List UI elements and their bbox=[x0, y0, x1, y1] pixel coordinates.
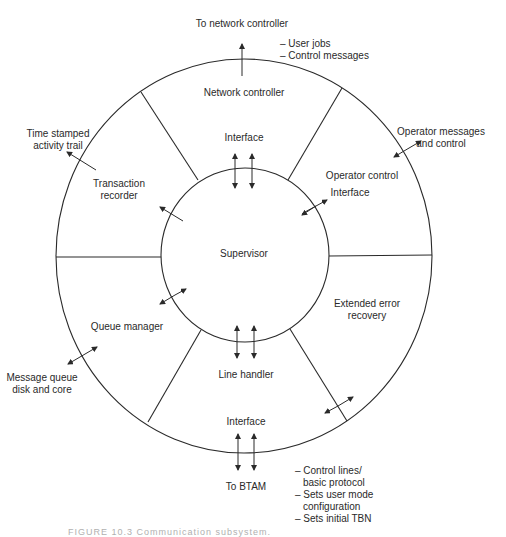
operator-interface-label: Interface bbox=[331, 187, 370, 199]
btam-note-1: – Control lines/ bbox=[295, 465, 362, 477]
operator-messages-label-2: and control bbox=[416, 138, 465, 150]
btam-note-4: configuration bbox=[303, 501, 360, 513]
segment-operator-control: Operator control bbox=[326, 170, 398, 182]
btam-note-2: basic protocol bbox=[303, 477, 365, 489]
btam-note-3: – Sets user mode bbox=[295, 489, 373, 501]
network-note-1: – User jobs bbox=[280, 38, 331, 50]
segment-queue-manager: Queue manager bbox=[91, 321, 163, 333]
arrow-queue-supervisor bbox=[175, 289, 186, 295]
divider-right bbox=[329, 255, 432, 256]
to-network-controller-label: To network controller bbox=[196, 18, 288, 30]
line-handler-interface-label: Interface bbox=[227, 416, 266, 428]
supervisor-label: Supervisor bbox=[220, 248, 268, 260]
divider-top-right bbox=[288, 88, 342, 180]
ring-diagram bbox=[0, 0, 506, 537]
arrow-message-queue bbox=[80, 347, 97, 357]
divider-top-left bbox=[141, 92, 198, 180]
arrow-error-recovery bbox=[338, 397, 353, 406]
to-btam-label: To BTAM bbox=[226, 481, 266, 493]
arrow-time-stamped bbox=[67, 152, 96, 170]
divider-bottom-left bbox=[148, 330, 201, 422]
segment-line-handler: Line handler bbox=[218, 369, 273, 381]
segment-extended-error-recovery-2: recovery bbox=[348, 310, 386, 322]
message-queue-label-1: Message queue bbox=[6, 372, 77, 384]
network-note-2: – Control messages bbox=[280, 50, 369, 62]
time-stamped-label-1: Time stamped bbox=[27, 128, 90, 140]
network-interface-label: Interface bbox=[225, 132, 264, 144]
figure-caption: FIGURE 10.3 Communication subsystem. bbox=[68, 527, 271, 537]
segment-transaction-recorder-2: recorder bbox=[100, 190, 137, 202]
time-stamped-label-2: activity trail bbox=[33, 140, 82, 152]
btam-note-5: – Sets initial TBN bbox=[295, 513, 372, 525]
segment-transaction-recorder-1: Transaction bbox=[93, 178, 145, 190]
message-queue-label-2: disk and core bbox=[12, 384, 71, 396]
divider-bottom-right bbox=[290, 329, 347, 421]
segment-network-controller: Network controller bbox=[204, 87, 285, 99]
operator-messages-label-1: Operator messages bbox=[397, 126, 485, 138]
segment-extended-error-recovery-1: Extended error bbox=[334, 298, 400, 310]
arrow-transaction-recorder bbox=[160, 207, 183, 221]
